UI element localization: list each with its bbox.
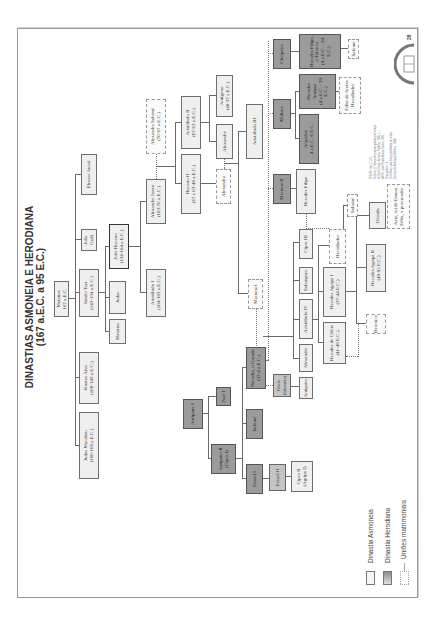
person-herodes-de-calcis: Herodes de Cálcis(41-48 E.C.) <box>323 322 346 364</box>
connector <box>318 245 329 246</box>
connector <box>263 336 293 337</box>
legend-label-asmonean: Dinastia Asmoneia <box>367 509 374 563</box>
person-alexandre-janeu: Alexandre Janeu(103-76 a.E.C.) <box>146 179 166 224</box>
person-berenice: Berenice <box>366 314 386 334</box>
legend-label-marriage: Uniões matrimoniais <box>400 500 407 559</box>
marriage-line <box>358 324 359 357</box>
marriage-line <box>266 360 268 361</box>
person-salome-2: Salomé <box>347 194 358 217</box>
person-antipater-2: Antipater II(Cipro I) <box>211 444 236 474</box>
person-antipater-son: Antipater <box>299 377 313 399</box>
connector <box>238 131 246 132</box>
person-eleazar-auara: Eleazar Auarã <box>81 154 97 195</box>
person-herodes-filipe: Herodes Filipe <box>296 169 316 214</box>
legend-swatch-herodian <box>383 571 392 585</box>
legend-line <box>404 563 405 571</box>
person-alexandre: Alexandre <box>216 124 233 159</box>
connector <box>140 201 141 293</box>
connector <box>356 267 366 268</box>
marriage-line <box>266 385 273 386</box>
connector <box>224 163 238 164</box>
person-antipater-1: Antipater I <box>183 399 203 429</box>
marriage-line <box>268 41 269 361</box>
person-herodes-agripa-1: Herodes Agripa I(37-44 E.C.) <box>323 267 346 317</box>
person-salome-1: Salomé <box>246 409 263 439</box>
person-cipro-3: Cipro III <box>299 229 313 259</box>
person-maltace: Maltace <box>273 99 291 129</box>
connector <box>341 48 348 49</box>
connector <box>291 51 299 52</box>
title-line-1: DINASTIAS ASMONEIA E HERODIANA <box>24 147 35 447</box>
marriage-line <box>224 159 225 169</box>
person-filha-de-aretas-herodiades: Filha de AretasHerodíades <box>339 77 361 114</box>
person-hircano-2: Hircano II(67 e 63-40 a.E.C.) <box>181 154 201 214</box>
person-fasael-2: Fasael II <box>269 464 286 491</box>
person-aristobulo-4: Aristóbulo IV <box>299 299 313 339</box>
connector <box>208 396 216 397</box>
connector <box>293 242 294 359</box>
connector <box>356 215 357 324</box>
person-jose-1: José I <box>216 387 231 406</box>
connector <box>238 293 248 294</box>
person-herodes-filipe-tetrarca: Herodes Filipe, o Tetrarca(4 a.E.C. - 34… <box>299 34 341 69</box>
connector <box>129 246 140 247</box>
connector <box>346 291 356 292</box>
connector <box>156 166 175 167</box>
person-joao-gadi: João Gadi <box>81 229 97 251</box>
legend-swatch-asmonean <box>366 571 375 585</box>
connector <box>209 141 216 142</box>
connector <box>209 95 210 142</box>
person-doris: Dóris(Iduméia) <box>273 374 291 397</box>
person-herodes-o-grande: Herodes, o Grande(37-4 a.E.C.) <box>246 347 266 389</box>
publisher-logo <box>394 41 416 87</box>
connector <box>238 131 239 294</box>
person-herodes-agripa-2: Herodes Agripa II(48-95 E.C.) <box>366 244 386 292</box>
connector <box>291 386 299 387</box>
person-herodes-antipas: Herodes Antipas(4 a.E.C. - 39 E.C.) <box>299 74 336 109</box>
person-aristobulo-3: Aristóbulo III <box>246 104 263 159</box>
connector <box>175 122 176 184</box>
person-judas-macabeu: Judas Macabeu(166-160 a.E.C.) <box>79 412 99 479</box>
connector <box>105 246 106 332</box>
person-herodiades: Herodíades <box>329 229 346 264</box>
person-antigono: Antígono(40-37 a.E.C.) <box>216 75 233 117</box>
person-judas: Judas <box>109 281 126 314</box>
connector <box>208 396 209 459</box>
footnote: FONTE: Vol. 2, 2-5; Schürer, E. Storia d… <box>370 125 398 179</box>
copyright: © Pia Sociedade Filhas de São Paulo, 200… <box>417 80 420 127</box>
person-matatias: Matatias167 a.E.C. <box>54 281 69 317</box>
person-simao-tasi: Simão Tasi(143-134 a.E.C.) <box>79 269 99 317</box>
marriage-line <box>346 356 358 357</box>
person-matatias-2: Matatias <box>109 319 126 344</box>
person-mariana-2: Mariana II <box>273 174 291 204</box>
person-drusila: Drusila <box>369 202 386 229</box>
person-alexandra-salome: Alexandra Salomé(76-67 a.E.C.) <box>146 99 166 154</box>
person-arquelau: Arquelau4 a.E.C.-6 E.C. <box>299 114 319 164</box>
person-joao-hircano: João Hircano(134-104 a.E.C.) <box>109 224 129 269</box>
connector <box>356 323 366 324</box>
person-alexandre-son: Alexandre <box>299 344 313 372</box>
connector <box>201 122 209 123</box>
person-aristobulo-2: Aristóbulo II(67-63 a.E.C.) <box>181 96 201 149</box>
person-mariana-1: Mariana I <box>248 279 263 309</box>
legend-swatch-marriage <box>400 571 409 585</box>
person-salampsio: Salampsio <box>299 267 313 294</box>
connector <box>343 205 344 229</box>
title-line-2: (167 a.E.C. a 95 E.C.) <box>35 147 46 447</box>
person-cleopatra: Cleópatra <box>273 39 291 69</box>
connector <box>75 174 76 446</box>
person-fasael-1: Fasael I <box>246 464 263 494</box>
person-cipro-2: Cipro II(Agripa I) <box>291 461 313 492</box>
person-alexandra: Alexandra <box>216 169 231 204</box>
connector <box>295 91 296 139</box>
person-jonatas-afus: Jônatas Áfus(160-143 a.E.C.) <box>79 352 99 404</box>
connector <box>318 245 319 343</box>
person-aziz-felix: Aziz, rei de EmesaFélix, o procurador <box>387 184 410 229</box>
legend-label-herodian: Dinastia Herodiana <box>384 508 391 563</box>
document-page: DINASTIAS ASMONEIA E HERODIANA (167 a.E.… <box>17 28 418 598</box>
page-title: DINASTIAS ASMONEIA E HERODIANA (167 a.E.… <box>24 147 46 447</box>
person-salome-3: Salomé <box>348 39 359 59</box>
person-aristobulo-1: Aristóbulo I(104-103 a.E.C.) <box>146 269 166 317</box>
connector <box>209 95 216 96</box>
page-number: 28 <box>406 34 412 40</box>
